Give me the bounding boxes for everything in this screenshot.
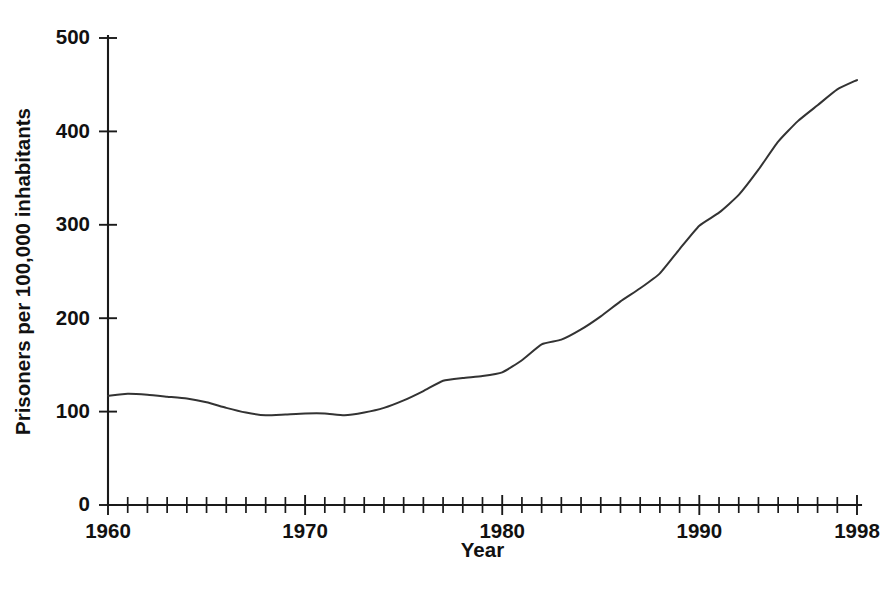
y-tick-label: 200 [56, 306, 90, 329]
x-tick-label: 1970 [282, 519, 328, 542]
line-chart: 010020030040050019601970198019901998Year… [0, 0, 888, 591]
y-axis-title: Prisoners per 100,000 inhabitants [11, 108, 34, 435]
data-series-line [108, 80, 857, 415]
y-tick-label: 300 [56, 212, 90, 235]
y-tick-label: 100 [56, 399, 90, 422]
y-tick-label: 400 [56, 119, 90, 142]
x-tick-label: 1990 [677, 519, 723, 542]
chart-figure: 010020030040050019601970198019901998Year… [0, 0, 888, 591]
x-axis-title: Year [461, 538, 504, 561]
y-tick-label: 0 [79, 492, 90, 515]
y-tick-label: 500 [56, 25, 90, 48]
x-tick-label: 1998 [834, 519, 880, 542]
x-tick-label: 1960 [85, 519, 131, 542]
